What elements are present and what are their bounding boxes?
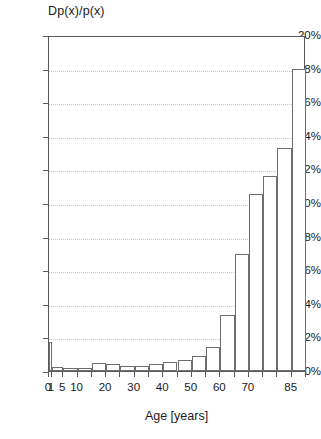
x-axis-tick-label: 30	[127, 381, 140, 393]
x-axis-tick	[162, 372, 163, 377]
bar	[52, 367, 63, 371]
bar	[263, 176, 277, 371]
x-axis-tick-label: 1	[48, 381, 54, 393]
bar	[106, 364, 120, 371]
x-axis-tick	[234, 372, 235, 377]
bar	[206, 347, 220, 371]
x-axis-tick-label: 50	[184, 381, 197, 393]
x-axis-tick	[248, 372, 249, 377]
bar	[292, 69, 306, 371]
x-axis-tick-label: 40	[156, 381, 169, 393]
x-axis-tick-label: 60	[213, 381, 226, 393]
x-axis-tick	[48, 372, 49, 377]
x-axis-tick	[77, 372, 78, 377]
bar	[135, 366, 149, 371]
x-axis-tick-label: 85	[284, 381, 297, 393]
x-axis-tick-label: 10	[70, 381, 83, 393]
bar	[63, 368, 77, 371]
x-axis-tick	[134, 372, 135, 377]
plot-area	[48, 36, 305, 372]
x-axis-tick	[291, 372, 292, 377]
bar	[277, 148, 291, 371]
bar	[120, 366, 134, 371]
bar	[163, 362, 177, 371]
bar	[178, 360, 192, 371]
x-axis-tick	[191, 372, 192, 377]
bar	[149, 364, 163, 371]
x-axis-tick	[105, 372, 106, 377]
x-axis-tick-label: 20	[99, 381, 112, 393]
x-axis-tick	[51, 372, 52, 377]
x-axis-tick	[148, 372, 149, 377]
x-axis-title: Age [years]	[48, 409, 305, 423]
x-axis-tick	[262, 372, 263, 377]
x-axis-tick	[177, 372, 178, 377]
x-axis-tick	[305, 372, 306, 377]
x-axis-tick-label: 70	[241, 381, 254, 393]
bar	[235, 254, 249, 371]
x-axis-tick	[276, 372, 277, 377]
bar	[220, 315, 234, 371]
bar	[249, 194, 263, 371]
x-axis-tick	[119, 372, 120, 377]
x-axis-tick-label: 5	[59, 381, 65, 393]
bar-series	[49, 37, 304, 371]
chart-figure: Dp(x)/p(x) 0%2%4%6%8%10%12%14%16%18%20% …	[0, 0, 321, 439]
x-axis-tick	[62, 372, 63, 377]
x-axis-tick	[205, 372, 206, 377]
bar	[78, 368, 92, 371]
x-axis-tick	[91, 372, 92, 377]
bar	[92, 363, 106, 371]
y-axis-title: Dp(x)/p(x)	[48, 4, 105, 18]
bar	[192, 356, 206, 371]
x-axis-tick	[219, 372, 220, 377]
